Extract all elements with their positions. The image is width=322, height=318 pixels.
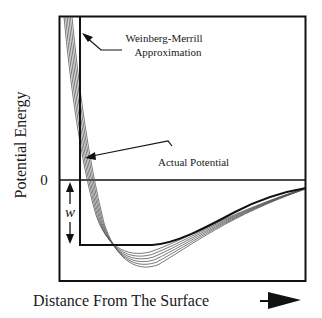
actual-label: Actual Potential xyxy=(158,156,229,168)
y-axis-label: Potential Energy xyxy=(12,92,30,199)
approx-pointer-arrowhead xyxy=(82,33,93,42)
well-depth-label: w xyxy=(65,204,75,220)
potential-diagram: w 0 Potential Energy Weinberg-Merrill Ap… xyxy=(0,0,322,318)
approx-label-line2: Approximation xyxy=(134,46,202,58)
zero-label: 0 xyxy=(40,172,48,188)
approx-label-line1: Weinberg-Merrill xyxy=(125,32,202,44)
x-direction-arrow-icon xyxy=(260,292,301,309)
approx-pointer-arrow xyxy=(86,37,122,50)
x-axis-label: Distance From The Surface xyxy=(33,292,209,309)
actual-pointer-arrow xyxy=(92,141,172,156)
